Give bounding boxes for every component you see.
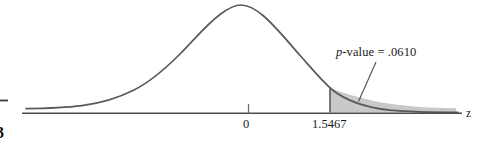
axis-label-z: z <box>466 108 471 120</box>
pvalue-leader-line <box>359 62 377 102</box>
axis-tick-label-zero: 0 <box>243 118 249 131</box>
statistics-figure: p-value = .0610 0 1.5467 z 3 <box>0 0 487 144</box>
figure-number-marker: 3 <box>0 124 4 142</box>
pvalue-annotation-label: p-value = .0610 <box>336 46 416 59</box>
pvalue-label-rest: -value = .0610 <box>342 45 416 59</box>
axis-tick-label-critical: 1.5467 <box>312 118 346 131</box>
